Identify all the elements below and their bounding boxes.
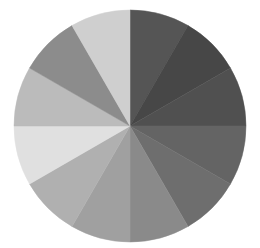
grayscale-pie-chart [0, 0, 260, 248]
